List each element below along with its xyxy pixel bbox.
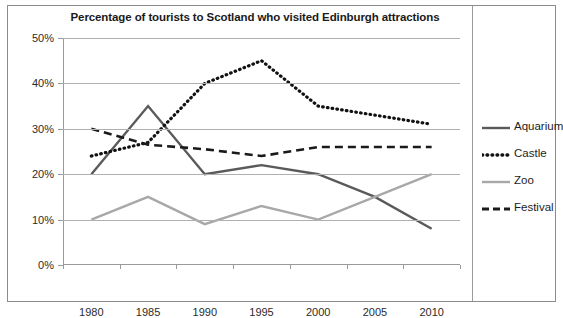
legend-label: Festival (514, 201, 554, 213)
y-axis-tick-label: 30% (10, 123, 54, 135)
legend-swatch-icon (482, 120, 510, 132)
legend-swatch-icon (482, 174, 510, 186)
x-axis-tick-label: 1995 (249, 306, 273, 318)
series-line-castle (91, 61, 431, 156)
gridline (63, 129, 460, 130)
plot-area: 0%10%20%30%40%50%19801985199019952000200… (63, 38, 460, 265)
y-tick-mark (58, 174, 63, 175)
gridline (63, 38, 460, 39)
x-axis-tick-label: 1980 (79, 306, 103, 318)
x-tick-mark (120, 265, 121, 269)
series-lines-layer (63, 38, 460, 265)
legend-item-festival[interactable]: Festival (482, 193, 560, 220)
x-axis-tick-label: 2005 (363, 306, 387, 318)
x-axis-tick-label: 2010 (419, 306, 443, 318)
x-tick-mark (176, 265, 177, 269)
gridline (63, 220, 460, 221)
legend-swatch-icon (482, 147, 510, 159)
chart-legend: AquariumCastleZooFestival (482, 112, 560, 220)
legend-swatch-icon (482, 201, 510, 213)
x-tick-mark (63, 265, 64, 269)
gridline (63, 174, 460, 175)
y-axis-tick-label: 40% (10, 77, 54, 89)
legend-label: Zoo (514, 174, 534, 186)
x-tick-mark (460, 265, 461, 269)
legend-item-aquarium[interactable]: Aquarium (482, 112, 560, 139)
x-tick-mark (347, 265, 348, 269)
chart-title: Percentage of tourists to Scotland who v… (40, 11, 470, 23)
x-axis-tick-label: 2000 (306, 306, 330, 318)
x-axis-tick-label: 1990 (193, 306, 217, 318)
series-line-festival (91, 129, 431, 156)
x-tick-mark (403, 265, 404, 269)
legend-label: Aquarium (514, 120, 563, 132)
legend-item-zoo[interactable]: Zoo (482, 166, 560, 193)
legend-label: Castle (514, 147, 547, 159)
y-tick-mark (58, 38, 63, 39)
y-tick-mark (58, 129, 63, 130)
x-axis-tick-label: 1985 (136, 306, 160, 318)
gridline (63, 83, 460, 84)
y-axis-tick-label: 20% (10, 168, 54, 180)
y-axis-tick-label: 10% (10, 214, 54, 226)
x-tick-mark (233, 265, 234, 269)
legend-item-castle[interactable]: Castle (482, 139, 560, 166)
y-tick-mark (58, 83, 63, 84)
series-line-aquarium (91, 106, 431, 229)
x-tick-mark (290, 265, 291, 269)
y-tick-mark (58, 220, 63, 221)
y-axis-tick-label: 50% (10, 32, 54, 44)
legend-separator (472, 6, 473, 301)
y-axis-tick-label: 0% (10, 259, 54, 271)
